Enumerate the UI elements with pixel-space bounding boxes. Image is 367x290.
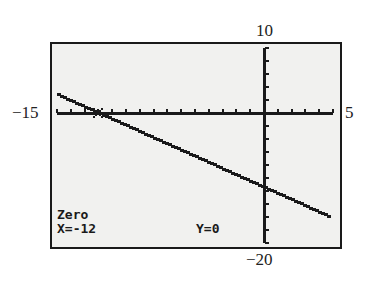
xmin-label: −15	[12, 104, 39, 121]
cursor-marker	[93, 116, 95, 118]
y-readout: Y=0	[196, 222, 219, 236]
cursor-marker	[95, 114, 97, 116]
x-tick	[194, 109, 196, 113]
y-tick	[265, 151, 269, 153]
y-tick	[265, 125, 269, 127]
x-tick	[180, 109, 182, 113]
x-tick	[235, 109, 237, 113]
y-tick	[265, 242, 269, 244]
mode-label: Zero	[57, 208, 88, 222]
x-tick	[277, 109, 279, 113]
x-tick	[222, 109, 224, 113]
y-tick	[265, 216, 269, 218]
cursor-marker	[101, 108, 103, 110]
x-tick	[153, 109, 155, 113]
y-tick	[265, 73, 269, 75]
cursor-marker	[97, 112, 99, 114]
x-tick	[111, 109, 113, 113]
x-tick	[291, 109, 293, 113]
y-tick	[265, 86, 269, 88]
x-readout: X=-12	[57, 222, 96, 236]
x-tick	[318, 109, 320, 113]
x-tick	[125, 109, 127, 113]
y-tick	[265, 138, 269, 140]
x-tick	[56, 109, 58, 113]
x-tick	[166, 109, 168, 113]
y-tick	[265, 203, 269, 205]
x-tick	[139, 109, 141, 113]
calculator-screen: Zero X=-12 Y=0	[50, 42, 342, 249]
cursor-marker	[93, 108, 95, 110]
y-tick	[265, 47, 269, 49]
x-tick	[208, 109, 210, 113]
x-tick	[70, 109, 72, 113]
y-axis	[263, 48, 266, 243]
cursor-marker	[99, 114, 101, 116]
cursor-marker	[99, 110, 101, 112]
x-tick	[249, 109, 251, 113]
x-tick	[332, 109, 334, 113]
x-tick	[304, 109, 306, 113]
y-tick	[265, 60, 269, 62]
y-tick	[265, 99, 269, 101]
ymin-label: −20	[246, 251, 273, 268]
y-tick	[265, 177, 269, 179]
cursor-marker	[101, 116, 103, 118]
cursor-marker	[95, 110, 97, 112]
y-tick	[265, 229, 269, 231]
xmax-label: 5	[345, 104, 354, 121]
y-tick	[265, 164, 269, 166]
graph-plot	[52, 44, 340, 247]
ymax-label: 10	[256, 22, 273, 39]
graph-line-segment	[327, 215, 331, 218]
x-tick	[84, 109, 86, 113]
